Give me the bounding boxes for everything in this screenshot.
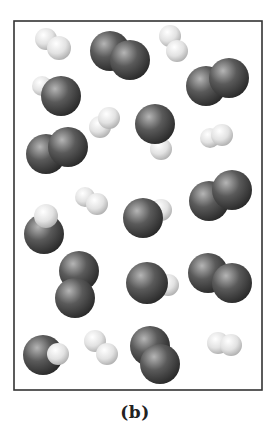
hydrogen-atom-sphere [166,40,188,62]
heavy-atom-sphere [135,104,175,144]
figure-caption: (b) [0,402,270,422]
heavy-atom-sphere [110,40,150,80]
molecule-box-diagram [0,0,270,444]
hydrogen-atom-sphere [47,343,69,365]
heavy-atom-sphere [140,344,180,384]
heavy-atom-sphere [123,198,163,238]
heavy-atom-sphere [41,76,81,116]
hydrogen-atom-sphere [96,343,118,365]
heavy-atom-sphere [55,278,95,318]
hydrogen-atom-sphere [211,124,233,146]
heavy-atom-sphere [212,170,252,210]
hydrogen-atom-sphere [47,36,71,60]
heavy-atom-sphere [48,127,88,167]
hydrogen-atom-sphere [220,334,242,356]
heavy-atom-sphere [209,58,249,98]
hydrogen-atom-sphere [86,193,108,215]
heavy-atom-sphere [212,263,252,303]
hydrogen-atom-sphere [98,107,120,129]
heavy-atom-sphere [126,262,168,304]
hydrogen-atom-sphere [34,204,58,228]
molecule-figure: (b) [0,0,270,444]
